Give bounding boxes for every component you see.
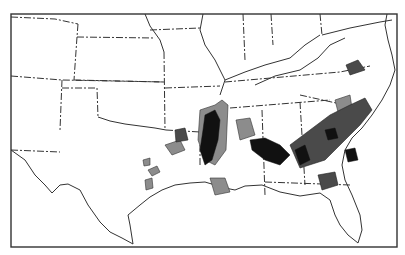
region-low [210, 178, 230, 195]
boundary-ohio [320, 14, 322, 35]
region-high [345, 148, 358, 162]
florida-west [330, 200, 358, 243]
va-wv [322, 20, 392, 35]
boundary-nm-texas [11, 150, 60, 152]
texas-west [11, 150, 133, 244]
gulf-coast-fl-panhandle [262, 185, 330, 200]
boundary-tenn-south [230, 100, 330, 108]
region-low [145, 178, 153, 190]
state-boundaries [11, 14, 370, 195]
mississippi-river-upper [200, 14, 225, 95]
boundary-missouri-north [150, 28, 200, 30]
gulf-coast-texas [128, 183, 190, 244]
missouri-river [145, 14, 164, 52]
region-low [143, 158, 150, 166]
red-river [98, 117, 166, 130]
boundary-illinois [243, 14, 273, 60]
boundary-colorado-north [11, 17, 78, 24]
region-medium [346, 60, 365, 75]
boundary-ok-east [164, 52, 165, 130]
region-medium [175, 128, 188, 142]
atlantic-coast [342, 14, 395, 165]
boundary-colorado-east [74, 24, 78, 80]
boundary-ark-north [165, 86, 220, 88]
map-canvas [0, 0, 405, 255]
region-high [250, 138, 290, 165]
region-low [165, 140, 185, 155]
region-low [148, 166, 160, 176]
region-medium [318, 172, 338, 190]
boundary-kansas-north [77, 37, 155, 38]
boundary-panhandle [60, 80, 98, 130]
region-low [236, 118, 255, 140]
